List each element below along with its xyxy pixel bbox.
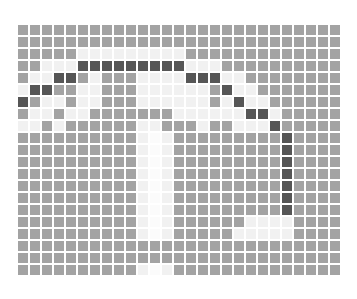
grid-cell xyxy=(78,205,88,215)
grid-cell xyxy=(210,253,220,263)
grid-cell xyxy=(102,217,112,227)
grid-cell xyxy=(222,133,232,143)
grid-cell xyxy=(138,241,148,251)
grid-cell xyxy=(210,157,220,167)
grid-cell xyxy=(258,217,268,227)
grid-cell xyxy=(114,181,124,191)
grid-cell xyxy=(246,265,256,275)
grid-cell xyxy=(186,217,196,227)
grid-cell xyxy=(318,157,328,167)
grid-cell xyxy=(18,61,28,71)
grid-cell xyxy=(294,241,304,251)
grid-cell xyxy=(270,73,280,83)
grid-cell xyxy=(282,61,292,71)
grid-cell xyxy=(234,121,244,131)
grid-cell xyxy=(90,49,100,59)
grid-cell xyxy=(42,241,52,251)
grid-cell xyxy=(102,241,112,251)
grid-cell xyxy=(66,169,76,179)
grid-cell xyxy=(234,145,244,155)
grid-cell xyxy=(90,97,100,107)
grid-cell xyxy=(270,193,280,203)
grid-cell xyxy=(18,205,28,215)
grid-cell xyxy=(66,133,76,143)
grid-cell xyxy=(222,25,232,35)
grid-cell xyxy=(54,265,64,275)
grid-cell xyxy=(258,133,268,143)
grid-cell xyxy=(294,85,304,95)
grid-cell xyxy=(114,169,124,179)
grid-cell xyxy=(282,157,292,167)
grid-cell xyxy=(102,193,112,203)
grid-cell xyxy=(174,217,184,227)
grid-cell xyxy=(126,169,136,179)
grid-cell xyxy=(174,241,184,251)
grid-cell xyxy=(78,157,88,167)
grid-cell xyxy=(78,229,88,239)
grid-cell xyxy=(330,133,340,143)
grid-cell xyxy=(150,37,160,47)
grid-cell xyxy=(198,229,208,239)
grid-cell xyxy=(18,169,28,179)
grid-cell xyxy=(186,37,196,47)
grid-cell xyxy=(306,133,316,143)
grid-cell xyxy=(162,25,172,35)
grid-cell xyxy=(66,109,76,119)
grid-cell xyxy=(258,169,268,179)
grid-cell xyxy=(138,217,148,227)
grid-cell xyxy=(114,217,124,227)
grid-cell xyxy=(258,229,268,239)
grid-cell xyxy=(246,61,256,71)
grid-cell xyxy=(54,25,64,35)
grid-cell xyxy=(150,85,160,95)
grid-cell xyxy=(234,265,244,275)
grid-cell xyxy=(282,121,292,131)
grid-cell xyxy=(318,229,328,239)
grid-cell xyxy=(330,85,340,95)
grid-cell xyxy=(258,73,268,83)
faded-caption xyxy=(20,0,80,8)
grid-cell xyxy=(186,169,196,179)
grid-cell xyxy=(246,25,256,35)
grid-cell xyxy=(186,49,196,59)
grid-cell xyxy=(30,25,40,35)
grid-cell xyxy=(66,181,76,191)
grid-cell xyxy=(78,253,88,263)
grid-cell xyxy=(210,37,220,47)
grid-cell xyxy=(306,73,316,83)
grid-cell xyxy=(258,193,268,203)
grid-cell xyxy=(114,265,124,275)
grid-cell xyxy=(210,25,220,35)
grid-cell xyxy=(114,157,124,167)
grid-cell xyxy=(18,73,28,83)
grid-cell xyxy=(186,61,196,71)
grid-cell xyxy=(90,181,100,191)
grid-cell xyxy=(270,265,280,275)
grid-cell xyxy=(54,181,64,191)
grid-cell xyxy=(258,265,268,275)
grid-cell xyxy=(114,205,124,215)
grid-cell xyxy=(90,145,100,155)
grid-cell xyxy=(126,97,136,107)
grid-cell xyxy=(78,145,88,155)
grid-cell xyxy=(330,121,340,131)
grid-cell xyxy=(54,157,64,167)
grid-cell xyxy=(330,241,340,251)
grid-cell xyxy=(102,73,112,83)
grid-cell xyxy=(126,37,136,47)
grid-cell xyxy=(30,241,40,251)
grid-cell xyxy=(138,61,148,71)
grid-cell xyxy=(282,97,292,107)
grid-cell xyxy=(126,61,136,71)
grid-cell xyxy=(186,253,196,263)
grid-cell xyxy=(162,181,172,191)
grid-cell xyxy=(54,97,64,107)
grid-cell xyxy=(54,121,64,131)
grid-cell xyxy=(234,229,244,239)
grid-cell xyxy=(150,109,160,119)
grid-cell xyxy=(138,169,148,179)
grid-cell xyxy=(78,97,88,107)
grid-cell xyxy=(42,73,52,83)
grid-cell xyxy=(282,205,292,215)
grid-cell xyxy=(66,193,76,203)
